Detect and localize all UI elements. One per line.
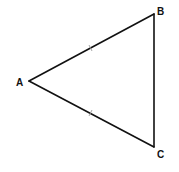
triangle-diagram: A B C: [0, 0, 179, 172]
side-ab: [29, 14, 154, 81]
vertex-label-b: B: [157, 6, 164, 17]
vertex-label-c: C: [157, 149, 164, 160]
vertex-label-a: A: [16, 77, 23, 88]
triangle-figure: A B C: [0, 0, 179, 172]
side-ac: [29, 81, 154, 147]
